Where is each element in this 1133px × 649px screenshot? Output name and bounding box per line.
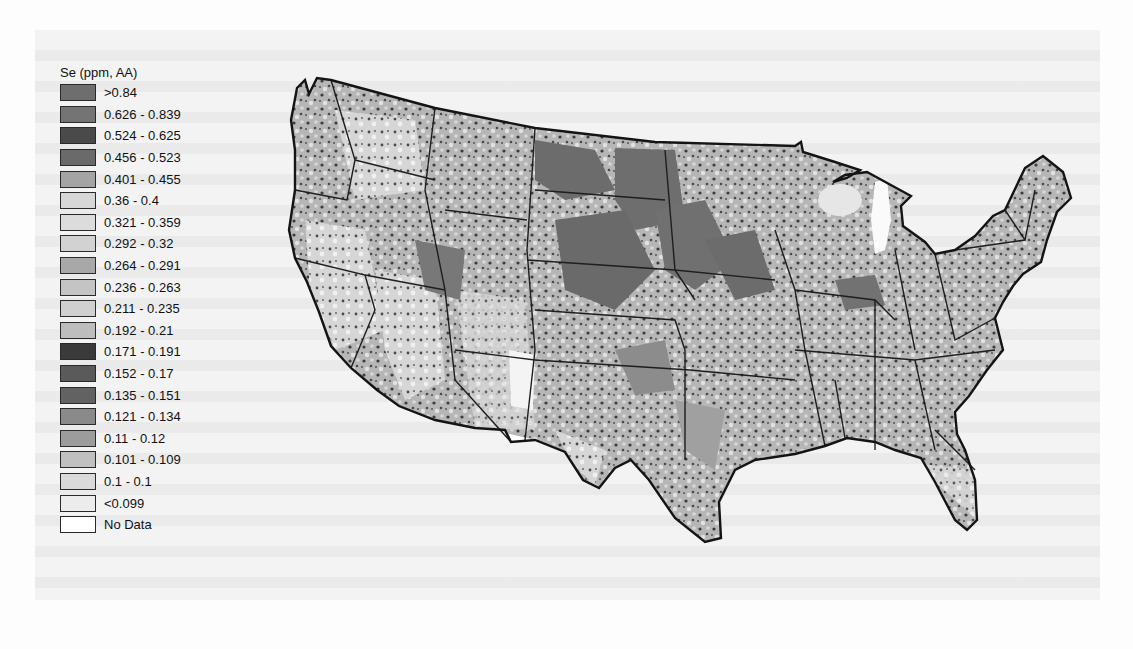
- legend-label: 0.401 - 0.455: [104, 172, 181, 187]
- legend-label: 0.121 - 0.134: [104, 409, 181, 424]
- legend-item: 0.524 - 0.625: [60, 125, 210, 147]
- legend-swatch: [60, 192, 96, 209]
- legend-label: 0.171 - 0.191: [104, 344, 181, 359]
- legend-swatch: [60, 235, 96, 252]
- legend-swatch: [60, 149, 96, 166]
- legend-item: 0.626 - 0.839: [60, 104, 210, 126]
- legend-label: 0.135 - 0.151: [104, 388, 181, 403]
- legend-label: <0.099: [104, 496, 144, 511]
- us-selenium-map: [235, 50, 1075, 600]
- legend-item: 0.211 - 0.235: [60, 298, 210, 320]
- legend-title: Se (ppm, AA): [60, 65, 210, 81]
- legend-item: 0.264 - 0.291: [60, 255, 210, 277]
- legend-swatch: [60, 257, 96, 274]
- legend-label: 0.36 - 0.4: [104, 193, 159, 208]
- legend-item: 0.192 - 0.21: [60, 320, 210, 342]
- legend-item: 0.456 - 0.523: [60, 147, 210, 169]
- legend-swatch: [60, 322, 96, 339]
- legend-item: 0.121 - 0.134: [60, 406, 210, 428]
- map-legend: Se (ppm, AA) >0.840.626 - 0.8390.524 - 0…: [60, 65, 210, 535]
- legend-item: 0.11 - 0.12: [60, 428, 210, 450]
- map-fill: [235, 50, 1075, 600]
- legend-label: 0.236 - 0.263: [104, 280, 181, 295]
- legend-label: >0.84: [104, 85, 137, 100]
- legend-swatch: [60, 365, 96, 382]
- legend-rows: >0.840.626 - 0.8390.524 - 0.6250.456 - 0…: [60, 82, 210, 535]
- legend-item: 0.236 - 0.263: [60, 276, 210, 298]
- legend-swatch: [60, 473, 96, 490]
- legend-label: 0.152 - 0.17: [104, 366, 173, 381]
- legend-swatch: [60, 430, 96, 447]
- legend-item: 0.101 - 0.109: [60, 449, 210, 471]
- legend-item: <0.099: [60, 492, 210, 514]
- legend-swatch: [60, 84, 96, 101]
- legend-swatch: [60, 127, 96, 144]
- legend-label: 0.524 - 0.625: [104, 128, 181, 143]
- legend-label: 0.456 - 0.523: [104, 150, 181, 165]
- legend-label: 0.292 - 0.32: [104, 236, 173, 251]
- legend-item: 0.321 - 0.359: [60, 212, 210, 234]
- legend-label: 0.264 - 0.291: [104, 258, 181, 273]
- legend-swatch: [60, 516, 96, 533]
- legend-item: 0.292 - 0.32: [60, 233, 210, 255]
- legend-swatch: [60, 387, 96, 404]
- legend-item: 0.152 - 0.17: [60, 363, 210, 385]
- legend-item: 0.1 - 0.1: [60, 471, 210, 493]
- legend-label: 0.1 - 0.1: [104, 474, 152, 489]
- legend-swatch: [60, 279, 96, 296]
- legend-label: No Data: [104, 517, 152, 532]
- legend-label: 0.11 - 0.12: [104, 431, 165, 446]
- legend-swatch: [60, 106, 96, 123]
- legend-label: 0.321 - 0.359: [104, 215, 181, 230]
- legend-swatch: [60, 451, 96, 468]
- legend-swatch: [60, 300, 96, 317]
- legend-item: >0.84: [60, 82, 210, 104]
- legend-item: 0.36 - 0.4: [60, 190, 210, 212]
- legend-label: 0.101 - 0.109: [104, 452, 181, 467]
- legend-swatch: [60, 343, 96, 360]
- legend-label: 0.211 - 0.235: [104, 301, 180, 316]
- legend-label: 0.192 - 0.21: [104, 323, 173, 338]
- legend-swatch: [60, 495, 96, 512]
- legend-label: 0.626 - 0.839: [104, 107, 181, 122]
- legend-item: 0.401 - 0.455: [60, 168, 210, 190]
- legend-item: No Data: [60, 514, 210, 536]
- legend-swatch: [60, 408, 96, 425]
- legend-item: 0.171 - 0.191: [60, 341, 210, 363]
- legend-swatch: [60, 171, 96, 188]
- legend-swatch: [60, 214, 96, 231]
- legend-item: 0.135 - 0.151: [60, 384, 210, 406]
- figure-scan: Se (ppm, AA) >0.840.626 - 0.8390.524 - 0…: [35, 30, 1100, 600]
